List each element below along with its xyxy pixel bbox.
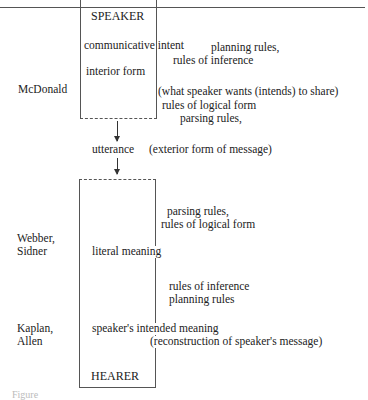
author-kaplan: Kaplan,	[17, 323, 53, 335]
utterance-note: (exterior form of message)	[149, 144, 272, 156]
interior-form: interior form	[86, 66, 145, 78]
hearer-rules-2a: rules of inference	[169, 281, 249, 293]
hearer-rules-2b: planning rules	[169, 294, 234, 306]
interior-note: (what speaker wants (intends) to share)	[158, 86, 338, 98]
literal-meaning: literal meaning	[92, 246, 163, 258]
speaker-title: SPEAKER	[91, 10, 144, 22]
hearer-box	[79, 179, 156, 388]
intended-meaning: speaker's intended meaning	[92, 323, 221, 335]
top-rule	[0, 7, 365, 8]
utterance: utterance	[92, 144, 134, 156]
author-sidner: Sidner	[17, 246, 47, 258]
hearer-rules-1b: rules of logical form	[161, 219, 255, 231]
author-mcdonald: McDonald	[18, 84, 67, 96]
communicative-intent: communicative intent	[84, 40, 184, 52]
interior-rules-2: parsing rules,	[180, 113, 242, 125]
intent-rules-2: rules of inference	[173, 55, 253, 67]
interior-rules-1: rules of logical form	[162, 100, 256, 112]
hearer-title: HEARER	[91, 370, 139, 382]
hearer-rules-1a: parsing rules,	[167, 206, 229, 218]
arrow-down-icon	[117, 158, 118, 174]
intended-note: (reconstruction of speaker's message)	[150, 336, 322, 348]
author-webber: Webber,	[17, 233, 55, 245]
arrow-down-icon	[117, 121, 118, 141]
intent-rules-1: planning rules,	[211, 42, 279, 54]
figure-caption: Figure	[12, 390, 38, 400]
author-allen: Allen	[17, 336, 43, 348]
